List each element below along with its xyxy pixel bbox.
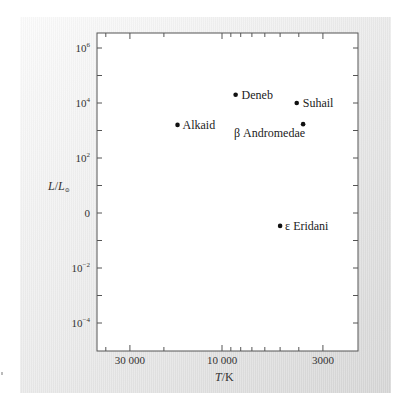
y-tick-label: 106 xyxy=(76,41,91,54)
point-label: ε Eridani xyxy=(285,219,329,233)
y-axis-label: L/L⊙ xyxy=(47,179,70,193)
x-tick-labels: 30 00010 0003000 xyxy=(115,354,335,366)
x-tick-label: 3000 xyxy=(312,354,335,366)
y-tick-label: 104 xyxy=(76,96,91,109)
point-marker xyxy=(175,123,180,128)
y-tick-label: 0 xyxy=(85,207,91,219)
plot-area xyxy=(97,33,358,351)
point-label: Deneb xyxy=(242,88,273,102)
point-label: Suhail xyxy=(303,96,334,110)
x-axis-label: T/K xyxy=(215,370,234,384)
x-tick-label: 30 000 xyxy=(115,354,146,366)
y-tick-label: 10−2 xyxy=(72,261,91,274)
x-tick-label: 10 000 xyxy=(207,354,238,366)
point-label: Alkaid xyxy=(183,118,216,132)
point-label: β Andromedae xyxy=(234,126,305,140)
y-tick-labels: 106104102010−210−4 xyxy=(72,41,91,329)
data-point: ε Eridani xyxy=(278,219,329,233)
point-marker xyxy=(294,101,299,106)
y-tick-label: 102 xyxy=(76,151,91,164)
point-marker xyxy=(233,92,238,97)
point-marker xyxy=(278,224,283,229)
hr-diagram: 106104102010−210−4 30 00010 0003000 Dene… xyxy=(0,0,410,411)
y-tick-label: 10−4 xyxy=(72,316,91,329)
